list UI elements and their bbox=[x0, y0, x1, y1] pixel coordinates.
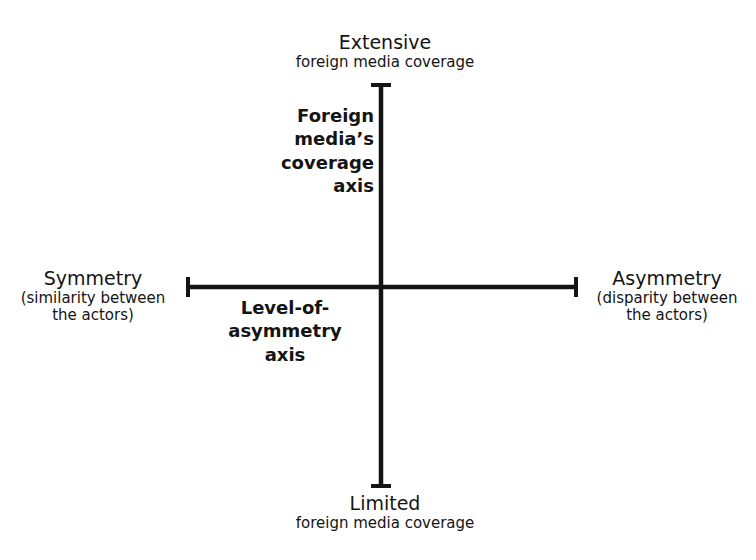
horizontal-axis-name: Level-of- asymmetry axis bbox=[212, 296, 358, 366]
horizontal-axis-name-line: axis bbox=[212, 343, 358, 366]
vertical-axis-name-line: coverage bbox=[262, 151, 374, 174]
vertical-axis-name-line: axis bbox=[262, 174, 374, 197]
horizontal-axis-name-line: Level-of- bbox=[212, 296, 358, 319]
vertical-axis-name-line: Foreign bbox=[262, 104, 374, 127]
top-end-label: Extensive foreign media coverage bbox=[270, 32, 500, 71]
top-end-subtitle: foreign media coverage bbox=[270, 54, 500, 71]
right-end-subtitle-line-1: (disparity between bbox=[578, 290, 756, 307]
right-end-title: Asymmetry bbox=[578, 268, 756, 290]
top-end-title: Extensive bbox=[270, 32, 500, 54]
right-end-label: Asymmetry (disparity between the actors) bbox=[578, 268, 756, 324]
horizontal-axis-name-line: asymmetry bbox=[212, 319, 358, 342]
quadrant-diagram: Extensive foreign media coverage Limited… bbox=[0, 0, 756, 560]
left-end-subtitle-line-1: (similarity between bbox=[0, 290, 186, 307]
bottom-end-title: Limited bbox=[270, 493, 500, 515]
right-end-subtitle-line-2: the actors) bbox=[578, 307, 756, 324]
vertical-axis-name: Foreign media’s coverage axis bbox=[262, 104, 374, 198]
left-end-label: Symmetry (similarity between the actors) bbox=[0, 268, 186, 324]
bottom-end-subtitle: foreign media coverage bbox=[270, 515, 500, 532]
bottom-end-label: Limited foreign media coverage bbox=[270, 493, 500, 532]
left-end-title: Symmetry bbox=[0, 268, 186, 290]
left-end-subtitle-line-2: the actors) bbox=[0, 307, 186, 324]
vertical-axis-name-line: media’s bbox=[262, 127, 374, 150]
